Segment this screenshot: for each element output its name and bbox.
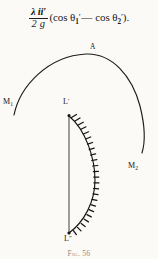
formula-open-paren-cos: (cos <box>50 11 71 23</box>
minus-dash: — <box>81 11 93 23</box>
label-l-prime-mark: ′ <box>68 97 70 105</box>
fraction-numerator: λ ii′ <box>29 7 48 18</box>
winding-tick <box>86 137 91 139</box>
suspension-arc <box>14 54 144 153</box>
fraction-denominator: 2 g <box>30 19 48 30</box>
winding-tick <box>88 143 93 145</box>
winding-tick <box>89 210 94 212</box>
coil-curved-edge <box>69 116 95 233</box>
figure-caption-number: 56 <box>82 249 90 258</box>
formula-close-paren: ). <box>123 11 129 23</box>
figure-page: λ ii′ 2 g (cos θ1′— cos θ2′). <box>0 0 158 259</box>
label-a: A <box>90 43 95 50</box>
fraction-lambda-ii-over-2g: λ ii′ 2 g <box>29 7 48 30</box>
winding-tick <box>92 160 97 161</box>
winding-tick <box>78 227 82 231</box>
winding-tick <box>75 118 80 121</box>
winding-tick <box>92 199 97 200</box>
label-l-double-prime-mark: ″ <box>69 234 72 242</box>
figure-caption: Fig. 56 <box>0 249 158 259</box>
label-m1-subscript: 1 <box>10 101 13 107</box>
winding-tick <box>87 215 91 217</box>
winding-tick <box>93 194 98 195</box>
figure-caption-prefix: Fig. <box>68 249 81 258</box>
winding-tick <box>78 122 83 125</box>
winding-tick <box>73 231 76 235</box>
cos-2-text: cos <box>93 11 113 23</box>
label-m1: M1 <box>3 98 13 107</box>
label-m2: M2 <box>128 162 138 171</box>
winding-tick <box>91 205 96 207</box>
figure-diagram: M1 M2 A L′ L″ <box>0 34 158 249</box>
diagram-svg <box>0 34 158 249</box>
coil-top-node <box>68 114 71 117</box>
winding-tick <box>84 219 88 222</box>
formula-right-hand-side: (cos θ1′— cos θ2′). <box>50 12 130 26</box>
formula-expression: λ ii′ 2 g (cos θ1′— cos θ2′). <box>0 2 158 34</box>
label-m2-subscript: 2 <box>135 165 138 171</box>
winding-tick <box>81 127 86 130</box>
winding-tick <box>81 224 85 227</box>
winding-tick <box>93 166 98 167</box>
label-l-double-prime: L″ <box>64 235 72 243</box>
label-l-prime: L′ <box>63 98 69 106</box>
winding-tick <box>84 132 89 134</box>
winding-tick <box>72 115 77 118</box>
